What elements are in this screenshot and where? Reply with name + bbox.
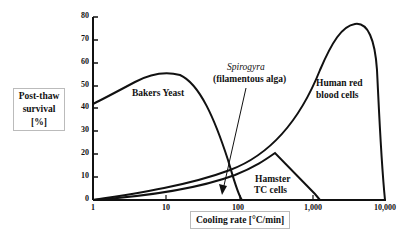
label-rbc-line2: blood cells [316,90,359,101]
label-spirogyra: Spirogyra [227,62,265,73]
y-tick-40: 40 [75,102,89,111]
label-bakers-yeast: Bakers Yeast [132,88,184,99]
label-hamster-line1: Hamster [255,174,290,185]
y-tick-30: 30 [75,125,89,134]
x-tick-10: 10 [146,203,186,212]
x-axis-label: Cooling rate [°C/min] [190,211,290,229]
y-tick-60: 60 [75,57,89,66]
y-tick-0: 0 [75,194,89,203]
y-tick-50: 50 [75,80,89,89]
y-axis-label-line2: survival [14,103,64,116]
y-tick-80: 80 [75,11,89,20]
y-axis-label-line3: [%] [14,116,64,129]
y-tick-20: 20 [75,148,89,157]
label-hamster-line2: TC cells [254,185,287,196]
x-tick-1: 1 [73,203,113,212]
x-tick-1000: 1,000 [293,203,333,212]
y-axis-label-line1: Post-thaw [14,90,64,103]
y-tick-10: 10 [75,171,89,180]
y-axis-label: Post-thaw survival [%] [13,88,65,131]
arrow-head-icon [219,184,227,195]
label-spirogyra-sub: (filamentous alga) [213,74,286,85]
label-rbc-line1: Human red [316,78,363,89]
y-tick-70: 70 [75,34,89,43]
x-tick-10000: 10,000 [365,203,405,212]
